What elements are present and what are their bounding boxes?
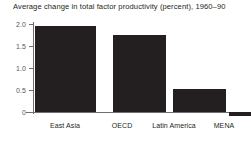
bar-oecd [113,35,166,112]
bar-mena [229,112,251,116]
y-tick-label-0: 0 [6,109,26,116]
y-tick-label-0-5: 0.5 [6,87,26,94]
y-tick-label-1-5: 1.5 [6,43,26,50]
x-label-east-asia: East Asia [35,122,95,130]
chart-title: Average change in total factor productiv… [13,2,249,11]
bar-east-asia [35,26,96,112]
x-label-latin-america: Latin America [144,122,204,130]
x-label-oecd: OECD [96,122,148,130]
x-label-mena: MENA [202,122,246,130]
bar-latin-america [173,89,226,112]
chart-figure: Average change in total factor productiv… [0,0,251,142]
y-tick-label-2-0: 2.0 [6,21,26,28]
bar-series [33,24,248,119]
y-tick-label-1-0: 1.0 [6,65,26,72]
